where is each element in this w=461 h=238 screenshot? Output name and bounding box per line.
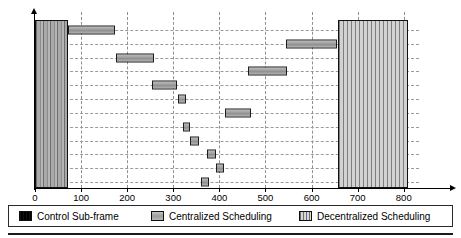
- x-tick-label-700: 700: [338, 192, 378, 203]
- task-bar-e1: [68, 25, 115, 34]
- task-bar-e11: [216, 164, 225, 173]
- legend-label-centralized-scheduling: Centralized Scheduling: [169, 211, 272, 222]
- legend-label-decentralized-scheduling: Decentralized Scheduling: [317, 211, 430, 222]
- task-bar-e4: [248, 67, 287, 76]
- legend-item-control-sub-frame: Control Sub-frame: [19, 206, 119, 226]
- gantt-chart-figure: 0100200300400500600700800 e1e2e3e4e5e6e7…: [0, 0, 461, 238]
- control-swatch-icon: [19, 211, 32, 221]
- control-subframe-block: [35, 20, 68, 188]
- task-bar-e2: [286, 39, 338, 48]
- x-tick-label-300: 300: [153, 192, 193, 203]
- task-bar-e3: [116, 53, 154, 62]
- task-bar-e10: [207, 150, 216, 159]
- task-bar-e6: [178, 95, 186, 104]
- legend-label-control-sub-frame: Control Sub-frame: [37, 211, 119, 222]
- decentralized-scheduling-block: [338, 20, 408, 188]
- centralized-swatch-icon: [151, 211, 164, 221]
- x-tick-label-400: 400: [199, 192, 239, 203]
- x-axis-arrow-icon: [450, 185, 456, 191]
- legend-item-decentralized-scheduling: Decentralized Scheduling: [299, 206, 430, 226]
- chart-legend: Control Sub-frame Centralized Scheduling…: [8, 205, 453, 227]
- x-axis-line: [35, 188, 451, 189]
- x-tick-label-600: 600: [292, 192, 332, 203]
- task-bar-e5: [152, 81, 176, 90]
- legend-item-centralized-scheduling: Centralized Scheduling: [151, 206, 272, 226]
- x-tick-label-800: 800: [384, 192, 424, 203]
- task-bar-e12: [201, 178, 209, 187]
- decentralized-swatch-icon: [299, 211, 312, 221]
- bottom-divider: [8, 233, 453, 235]
- x-tick-label-200: 200: [107, 192, 147, 203]
- plot-area: [35, 22, 413, 188]
- x-tick-label-0: 0: [15, 192, 55, 203]
- x-tick-label-500: 500: [245, 192, 285, 203]
- task-bar-e9: [190, 136, 199, 145]
- task-bar-e8: [183, 122, 190, 131]
- x-tick-label-100: 100: [61, 192, 101, 203]
- task-bar-e7: [225, 108, 250, 117]
- y-axis-arrow-icon: [31, 8, 37, 14]
